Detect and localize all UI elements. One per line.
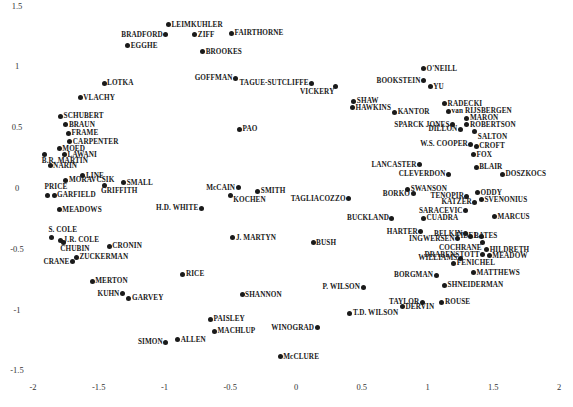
point-label: DOSZKOCS — [505, 170, 546, 178]
point-marker-icon — [487, 253, 492, 258]
point-marker-icon — [120, 291, 125, 296]
point-label: VICKERY — [300, 88, 334, 96]
point-label: GARFIELD — [57, 191, 96, 199]
point-marker-icon — [228, 193, 233, 198]
point-label: CRANE — [43, 258, 69, 266]
point-label: NARIN — [53, 162, 77, 170]
point-marker-icon — [428, 84, 433, 89]
point-label: ZIFF — [198, 31, 215, 39]
point-label: T.D. WILSON — [353, 309, 398, 317]
point-label: KUHN — [97, 290, 119, 298]
point-marker-icon — [446, 172, 451, 177]
y-tick-label: -1.5 — [0, 365, 34, 375]
point-label: ALLEN — [181, 336, 206, 344]
point-marker-icon — [475, 190, 480, 195]
point-label: SMALL — [127, 179, 153, 187]
point-label: TAGLIACOZZO — [291, 195, 346, 203]
point-marker-icon — [230, 235, 235, 240]
point-label: BUSH — [316, 239, 336, 247]
x-tick-label: -0.5 — [218, 382, 242, 392]
point-marker-icon — [484, 247, 489, 252]
point-label: MEADOWS — [62, 206, 101, 214]
point-marker-icon — [479, 197, 484, 202]
point-marker-icon — [468, 142, 473, 147]
point-label: HAWKINS — [356, 104, 391, 112]
point-label: BUCKLAND — [347, 214, 389, 222]
point-marker-icon — [392, 110, 397, 115]
point-marker-icon — [434, 273, 439, 278]
point-marker-icon — [49, 235, 54, 240]
point-label: W.S. COOPER — [420, 140, 468, 148]
point-label: BROOKES — [206, 48, 242, 56]
point-marker-icon — [361, 285, 366, 290]
point-label: MACHLUP — [217, 327, 255, 335]
point-marker-icon — [66, 131, 71, 136]
point-label: SALTON — [478, 133, 507, 141]
point-marker-icon — [389, 216, 394, 221]
point-label: ZUCKERMAN — [79, 253, 128, 261]
x-tick-label: 0.5 — [350, 382, 374, 392]
point-label: PRICE — [44, 183, 67, 191]
point-label: CRONIN — [112, 242, 142, 250]
point-label: SHNEIDERMAN — [448, 281, 504, 289]
point-label: RICE — [186, 270, 204, 278]
point-marker-icon — [192, 32, 197, 37]
point-label: ROUSE — [445, 298, 470, 306]
point-label: MARCUS — [498, 213, 530, 221]
point-marker-icon — [58, 114, 63, 119]
point-marker-icon — [474, 144, 479, 149]
point-label: J. MARTYN — [236, 234, 276, 242]
point-label: SMITH — [261, 187, 285, 195]
y-tick-label: 1 — [0, 61, 34, 71]
point-label: LOTKA — [107, 79, 133, 87]
point-marker-icon — [57, 146, 62, 151]
point-label: MATTHEWS — [477, 269, 520, 277]
point-label: P. WILSON — [322, 283, 360, 291]
point-marker-icon — [208, 317, 213, 322]
point-marker-icon — [479, 234, 484, 239]
point-marker-icon — [212, 329, 217, 334]
y-tick-label: 1.5 — [0, 1, 34, 11]
point-marker-icon — [451, 261, 456, 266]
point-label: TAGUE-SUTCLIFFE — [240, 79, 309, 87]
point-label: FRAME — [72, 129, 99, 137]
point-marker-icon — [315, 325, 320, 330]
point-label: DILLON — [428, 125, 457, 133]
point-marker-icon — [346, 196, 351, 201]
point-label: GOFFMAN — [195, 74, 233, 82]
x-tick-label: 2 — [547, 382, 571, 392]
point-label: WINOGRAD — [271, 324, 314, 332]
y-tick-label: 0 — [0, 183, 34, 193]
point-marker-icon — [350, 105, 355, 110]
point-marker-icon — [240, 292, 245, 297]
point-label: McCLURE — [283, 353, 319, 361]
point-label: McCAIN — [206, 184, 235, 192]
point-label: BORGMAN — [394, 271, 433, 279]
point-marker-icon — [255, 189, 260, 194]
point-marker-icon — [418, 229, 423, 234]
point-marker-icon — [471, 152, 476, 157]
point-marker-icon — [199, 206, 204, 211]
point-marker-icon — [463, 208, 468, 213]
point-label: PAISLEY — [214, 315, 245, 323]
point-marker-icon — [421, 66, 426, 71]
point-marker-icon — [411, 191, 416, 196]
point-marker-icon — [442, 283, 447, 288]
point-marker-icon — [233, 76, 238, 81]
point-marker-icon — [400, 304, 405, 309]
point-marker-icon — [102, 81, 107, 86]
point-label: BOOKSTEIN — [377, 77, 421, 85]
point-marker-icon — [480, 252, 485, 257]
point-marker-icon — [500, 172, 505, 177]
point-label: MEADOW — [492, 252, 527, 260]
point-marker-icon — [70, 259, 75, 264]
point-marker-icon — [278, 354, 283, 359]
point-marker-icon — [57, 207, 62, 212]
point-marker-icon — [446, 109, 451, 114]
point-marker-icon — [45, 193, 50, 198]
point-label: KATZER — [441, 198, 471, 206]
point-marker-icon — [180, 272, 185, 277]
point-marker-icon — [458, 127, 463, 132]
point-marker-icon — [163, 340, 168, 345]
point-label: SCHUBERT — [64, 112, 104, 120]
